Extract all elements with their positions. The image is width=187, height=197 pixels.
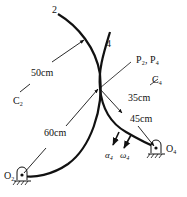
label-o2: O2 xyxy=(4,170,14,182)
label-contact-point: P₂, P₄ xyxy=(136,54,160,65)
label-dim-r4: 35cm xyxy=(128,92,150,103)
label-c4: C4 xyxy=(152,74,162,86)
label-link-4: 4 xyxy=(106,38,111,49)
dim-line-o2p-upper xyxy=(66,89,98,126)
alpha-arrow xyxy=(113,132,119,145)
label-c2: C2 xyxy=(13,95,23,107)
mechanism-diagram: 2 4 P₂, P₄ C2 C4 O2 O4 50cm 60cm 35cm 45… xyxy=(0,0,187,197)
dim-line-o2p-lower xyxy=(24,148,46,173)
pivot-o4 xyxy=(147,140,165,158)
label-o4: O4 xyxy=(166,143,176,155)
label-dim-o4p: 45cm xyxy=(130,113,152,124)
label-link-2: 2 xyxy=(52,4,57,15)
leader-contact xyxy=(100,62,131,88)
link-2-arc xyxy=(24,14,101,177)
label-omega4: ω4 xyxy=(120,150,129,161)
label-dim-o2p: 60cm xyxy=(44,127,66,138)
dim-line-r2 xyxy=(20,84,30,92)
label-alpha4: α4 xyxy=(105,150,113,161)
omega-arrow xyxy=(124,135,131,148)
dim-line-r2-upper xyxy=(52,40,84,62)
label-dim-r2: 50cm xyxy=(31,67,53,78)
link-4-arc xyxy=(100,32,158,148)
